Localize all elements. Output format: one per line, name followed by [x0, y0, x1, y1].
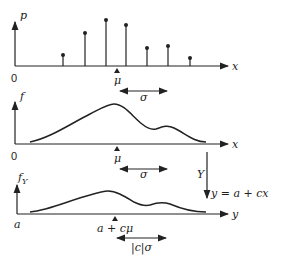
y-axis-label: p	[20, 9, 27, 22]
pdf-panel: f x 0 μ σ	[11, 90, 239, 181]
origin-label: 0	[11, 150, 17, 162]
origin-label: 0	[11, 72, 17, 84]
transform-variable: Y	[197, 168, 206, 181]
spread-label: σ	[140, 168, 148, 181]
spread-label: |c|σ	[131, 241, 153, 255]
mean-marker-icon	[114, 146, 120, 151]
stems	[61, 18, 192, 66]
mean-label: μ	[114, 74, 121, 87]
transform-equation: y = a + cx	[210, 187, 269, 200]
mean-marker-icon	[114, 68, 120, 73]
mean-label: μ	[114, 152, 121, 165]
x-axis-label: x	[232, 138, 239, 151]
transformed-pdf-panel: fY y a a + cμ |c|σ	[14, 171, 239, 255]
mean-label: a + cμ	[97, 222, 133, 235]
x-axis-label: y	[231, 208, 239, 221]
density-curve	[30, 104, 206, 142]
y-axis-label: f	[19, 90, 26, 103]
density-curve	[30, 191, 206, 212]
pmf-panel: p x 0 μ σ	[11, 9, 239, 104]
distribution-diagram: p x 0 μ σ f x 0 μ σ Y y = a + cx	[0, 0, 281, 261]
mean-marker-icon	[112, 216, 118, 221]
origin-label: a	[14, 218, 21, 231]
transform-arrow: Y y = a + cx	[197, 152, 269, 200]
y-axis-label: fY	[17, 171, 28, 186]
spread-label: σ	[140, 91, 148, 104]
x-axis-label: x	[232, 60, 239, 73]
